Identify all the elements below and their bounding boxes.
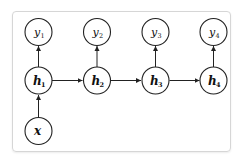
node-x: x [25, 118, 52, 145]
node-h1: h 1 [25, 67, 52, 94]
node-y1: y 1 [25, 19, 52, 46]
svg-text:1: 1 [41, 81, 46, 89]
svg-text:2: 2 [99, 32, 103, 40]
svg-text:3: 3 [158, 32, 162, 40]
svg-text:1: 1 [41, 32, 45, 40]
node-y4: y 4 [200, 19, 227, 46]
rnn-diagram: y 1 y 2 y 3 y 4 h 1 h 2 h 3 h 4 x [0, 0, 250, 164]
node-h2: h 2 [84, 67, 111, 94]
node-h4: h 4 [200, 67, 227, 94]
node-h3: h 3 [142, 67, 169, 94]
svg-text:4: 4 [216, 81, 221, 89]
node-y2: y 2 [84, 19, 111, 46]
svg-text:4: 4 [216, 32, 220, 40]
svg-text:x: x [33, 124, 42, 138]
node-y3: y 3 [142, 19, 169, 46]
svg-text:2: 2 [100, 81, 105, 89]
svg-text:3: 3 [158, 81, 163, 89]
